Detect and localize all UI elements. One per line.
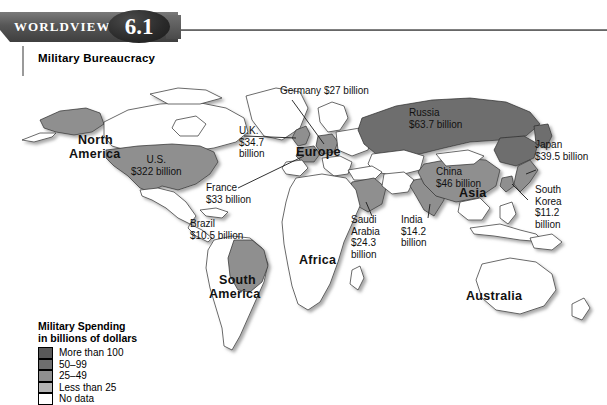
madagascar [350, 266, 364, 290]
continent-label-north-america-line1: North [78, 134, 113, 148]
legend-title-line1: Military Spending [38, 320, 137, 332]
legend-title-line2: in billions of dollars [38, 332, 137, 344]
caribbean-islands [200, 208, 228, 218]
legend-item-label: 50–99 [59, 359, 87, 371]
continent-australia [476, 258, 556, 314]
legend-swatch [38, 347, 53, 359]
chapter-number-badge: 6.1 [108, 10, 170, 43]
aleutians [22, 133, 56, 142]
legend-swatch [38, 359, 53, 371]
continent-label-asia: Asia [459, 187, 487, 201]
callout-united-states: U.S. $322 billion [131, 154, 182, 177]
callout-russia: Russia $63.7 billion [409, 107, 462, 130]
philippines [500, 202, 516, 224]
worldview-banner: WORLDVIEW 6.1 [0, 12, 607, 46]
callout-south-korea: South Korea $11.2 billion [535, 184, 562, 230]
map-legend: Military Spending in billions of dollars… [38, 320, 137, 405]
legend-swatch [38, 370, 53, 382]
legend-item: No data [38, 393, 137, 405]
chapter-number: 6.1 [108, 10, 170, 43]
continent-label-south-america-line1: South [219, 274, 256, 288]
legend-rows: More than 100 50–99 25–49 Less than 25 N… [38, 347, 137, 405]
country-iran [382, 172, 414, 194]
worldview-label: WORLDVIEW [14, 19, 111, 35]
continent-label-australia: Australia [466, 290, 522, 304]
callout-japan: Japan $39.5 billion [535, 139, 588, 162]
legend-item-label: More than 100 [59, 347, 124, 359]
region-southeast-asia [458, 198, 490, 220]
legend-item-label: 25–49 [59, 370, 87, 382]
legend-item: 50–99 [38, 359, 137, 371]
legend-item: 25–49 [38, 370, 137, 382]
new-zealand [572, 298, 590, 320]
legend-item-label: No data [59, 393, 94, 405]
legend-swatch [38, 382, 53, 394]
region-iberia [282, 160, 308, 176]
country-south-korea [500, 176, 514, 192]
region-scandinavia [318, 102, 348, 132]
continent-label-africa: Africa [299, 254, 336, 268]
continent-label-europe: Europe [296, 146, 341, 160]
continent-label-north-america-line2: America [69, 148, 120, 162]
callout-germany: Germany $27 billion [280, 85, 369, 97]
country-mexico [140, 188, 196, 224]
legend-item: Less than 25 [38, 382, 137, 394]
country-alaska [40, 108, 104, 135]
legend-item: More than 100 [38, 347, 137, 359]
continent-label-south-america-line2: America [209, 288, 260, 302]
callout-saudi-arabia: Saudi Arabia $24.3 billion [351, 214, 380, 260]
callout-france: France $33 billion [206, 182, 251, 205]
continent-africa [282, 174, 360, 310]
subtitle-divider [22, 46, 24, 76]
legend-swatch [38, 393, 53, 405]
callout-brazil: Brazil $10.5 billion [190, 218, 243, 241]
canada-arctic-islands [150, 88, 222, 104]
world-map: U.S. $322 billion Germany $27 billion U.… [0, 78, 607, 362]
callout-united-kingdom: U.K. $34.7 billion [239, 125, 265, 160]
callout-india: India $14.2 billion [401, 214, 427, 249]
figure-title: Military Bureaucracy [38, 52, 155, 64]
banner-rule [140, 29, 607, 31]
legend-item-label: Less than 25 [59, 382, 116, 394]
